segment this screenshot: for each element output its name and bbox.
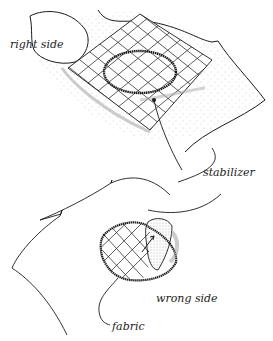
fabric-leader (99, 278, 118, 325)
illustration: right side stabilizer wrong side fabric (0, 0, 273, 341)
label-wrong-side: wrong side (156, 292, 218, 305)
label-right-side: right side (10, 38, 64, 51)
label-stabilizer: stabilizer (203, 166, 255, 179)
fabric-patch (85, 210, 177, 290)
label-fabric: fabric (112, 320, 145, 333)
